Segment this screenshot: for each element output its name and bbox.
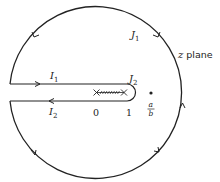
- arrow-arc-lower-left-icon: [31, 150, 36, 155]
- keyhole-contour-diagram: J1 J2 I1 I2 0 1 a b zplane: [0, 0, 220, 182]
- small-arc-j2: [127, 84, 136, 101]
- pole-point-icon: [149, 91, 152, 94]
- plane-label: zplane: [177, 49, 213, 60]
- branch-cut: [94, 90, 128, 96]
- label-i1: I1: [49, 70, 58, 84]
- arrow-arc-upper-right-icon: [153, 32, 160, 37]
- label-j1: J1: [129, 29, 139, 43]
- pole-label-fraction: a b: [148, 100, 155, 118]
- label-one: 1: [126, 107, 132, 118]
- svg-text:b: b: [149, 109, 154, 118]
- label-i2: I2: [48, 106, 57, 120]
- label-zero: 0: [93, 107, 99, 118]
- svg-text:a: a: [149, 100, 153, 109]
